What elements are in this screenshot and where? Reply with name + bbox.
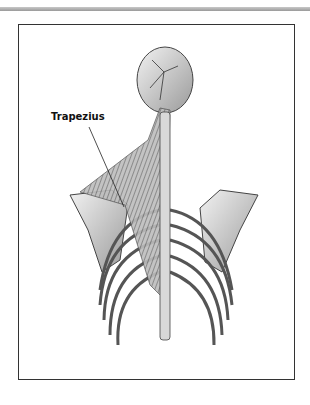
skull — [137, 47, 193, 113]
anatomy-illustration — [0, 0, 310, 405]
spine — [160, 112, 170, 340]
trapezius-label: Trapezius — [51, 111, 105, 122]
